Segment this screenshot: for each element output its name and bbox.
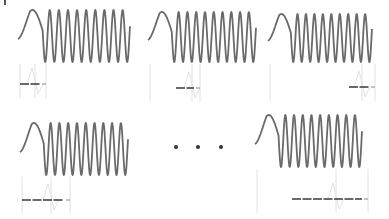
faint-guide-lines [150,64,200,102]
faint-guide-lines [20,64,46,98]
chirp-2-panel [148,12,256,102]
faint-guide-lines [257,169,368,213]
chirp-signal-figure [0,0,389,219]
chirp-5-panel [255,115,368,213]
chirp-waveform [18,10,130,62]
chirp-waveform [148,12,256,62]
chirp-waveform [268,14,372,62]
chirp-waveforms-layer [0,0,389,219]
ellipsis-dot [219,145,223,149]
chirp-waveform [255,115,362,167]
faint-guide-lines [270,64,375,101]
ellipsis-dot [174,145,178,149]
chirp-4-panel [20,123,128,214]
chirp-3-panel [268,14,375,101]
chirp-1-panel [18,10,130,98]
chirp-waveform [20,123,128,175]
ellipsis-dot [196,145,200,149]
faint-guide-lines [22,177,70,214]
